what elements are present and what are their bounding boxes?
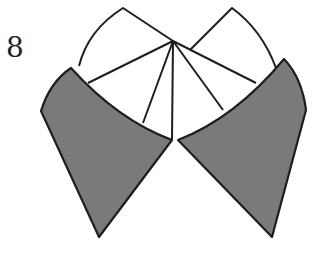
right-shaded-flap — [178, 59, 306, 237]
origami-diagram — [0, 0, 328, 254]
left-petal — [79, 8, 173, 66]
ray-3 — [172, 41, 173, 139]
left-shaded-flap — [41, 68, 172, 237]
right-petal — [190, 8, 276, 68]
